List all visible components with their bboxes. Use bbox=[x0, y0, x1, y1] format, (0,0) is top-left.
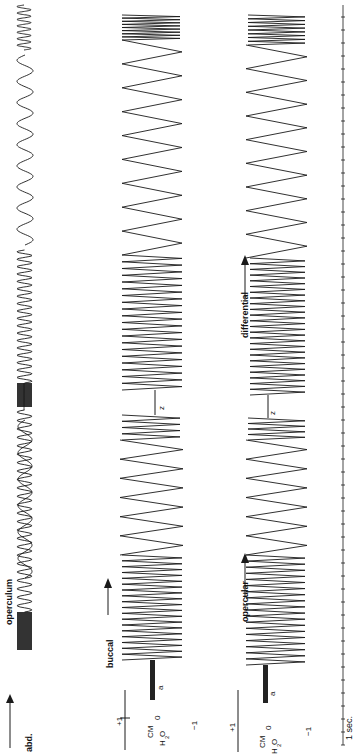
operculum-trace-slow-2 bbox=[17, 55, 33, 245]
buccal-tick-plus1: +1 bbox=[115, 717, 124, 726]
time-scale-label: 1 sec. bbox=[344, 716, 354, 740]
buccal-event-a: a bbox=[156, 686, 165, 690]
buccal-trace-fast-1 bbox=[122, 555, 182, 660]
label-buccal: buccal bbox=[105, 639, 115, 668]
abd-arrow-head-icon bbox=[6, 694, 14, 703]
buccal-baseline-bar bbox=[150, 660, 155, 700]
buccal-unit-h: H bbox=[158, 740, 167, 746]
opercular-trace-slow-1 bbox=[246, 440, 307, 555]
differential-arrow-head-icon bbox=[241, 255, 249, 265]
buccal-trace-slow-2 bbox=[122, 40, 182, 255]
opercular-tick-plus1: +1 bbox=[228, 723, 237, 732]
buccal-tick-0: 0 bbox=[153, 716, 162, 720]
traces-plot bbox=[0, 0, 364, 756]
operculum-trace-fast-3 bbox=[17, 5, 31, 50]
opercular-event-z: z bbox=[268, 411, 277, 415]
differential-trace-fast bbox=[250, 258, 305, 395]
label-abd: abd. bbox=[24, 733, 34, 752]
differential-trace-slow bbox=[246, 45, 307, 258]
operculum-stimulus-bar-2 bbox=[17, 383, 32, 407]
label-operculum: operculum bbox=[4, 579, 14, 625]
buccal-unit-cm: CM bbox=[146, 726, 155, 738]
buccal-tick-minus1: −1 bbox=[190, 721, 199, 730]
opercular-tick-0: 0 bbox=[264, 726, 273, 730]
opercular-baseline-bar bbox=[263, 665, 268, 703]
buccal-trace-fast-3 bbox=[122, 255, 182, 390]
differential-trace-fast-2 bbox=[248, 15, 305, 45]
operculum-stimulus-bar-1 bbox=[17, 612, 32, 650]
buccal-event-z: z bbox=[157, 406, 166, 410]
opercular-unit-h: H bbox=[270, 748, 279, 754]
label-differential: differential bbox=[240, 292, 250, 338]
opercular-trace-fast-2 bbox=[248, 418, 305, 440]
buccal-trace-slow-1 bbox=[120, 440, 183, 555]
opercular-tick-minus1: −1 bbox=[304, 727, 313, 736]
buccal-arrow-head-icon bbox=[104, 578, 112, 588]
label-opercular: opercular bbox=[240, 581, 250, 622]
opercular-event-a: a bbox=[268, 692, 277, 696]
opercular-unit-o: O bbox=[270, 739, 279, 745]
buccal-unit-o: O bbox=[158, 731, 167, 737]
operculum-trace-fast-1 bbox=[17, 410, 31, 612]
buccal-trace-fast-2 bbox=[122, 415, 180, 440]
buccal-trace-fast-4 bbox=[122, 15, 180, 40]
opercular-unit-cm: CM bbox=[258, 736, 267, 748]
operculum-trace-fast-2 bbox=[17, 250, 32, 383]
physiology-recording-figure: operculum abd. buccal opercular differen… bbox=[0, 0, 364, 756]
opercular-trace-fast-1 bbox=[246, 555, 305, 665]
